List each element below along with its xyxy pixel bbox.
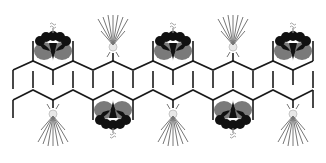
burst-group-icon	[98, 15, 128, 61]
burst-group-icon	[278, 100, 308, 146]
flower-group-icon	[153, 23, 193, 61]
polymer-diagram	[0, 0, 326, 163]
flower-group-icon	[213, 100, 253, 138]
lower-chain	[13, 90, 313, 118]
flower-group-icon	[93, 100, 133, 138]
burst-group-icon	[38, 100, 68, 146]
flower-group-icon	[33, 23, 73, 61]
burst-group-icon	[158, 100, 188, 146]
burst-group-icon	[218, 15, 248, 61]
flower-group-icon	[273, 23, 313, 61]
upper-chain	[13, 61, 313, 89]
